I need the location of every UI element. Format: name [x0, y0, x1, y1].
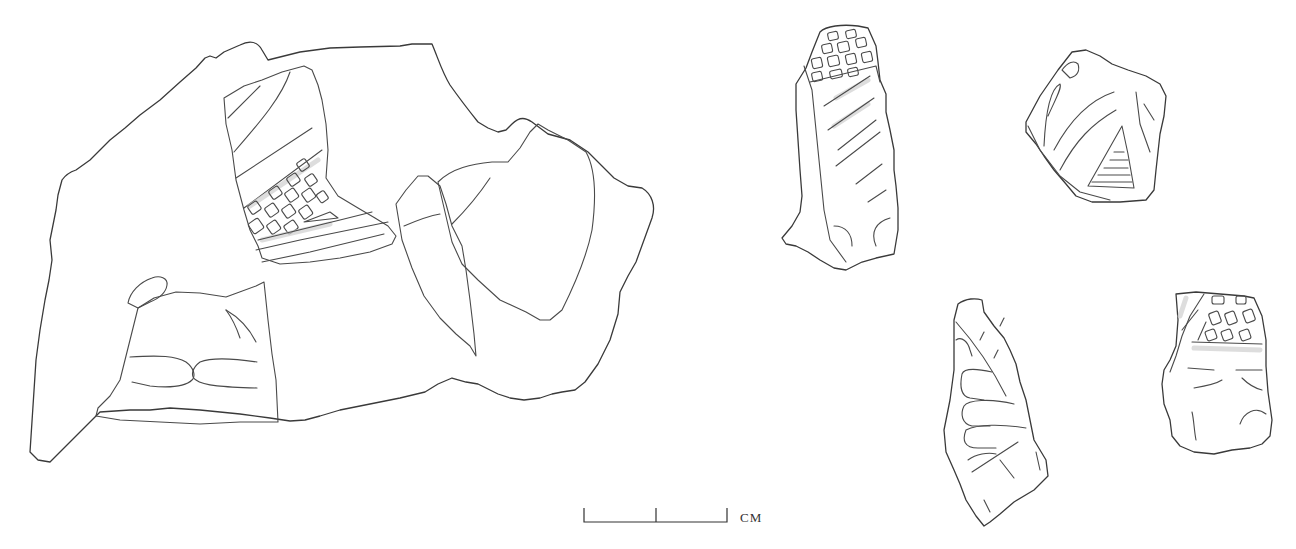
fragment-3-outline	[1026, 50, 1166, 202]
fragment-1-incised-line	[234, 72, 290, 152]
fragment-2-incised-line	[836, 132, 880, 166]
fragment-2-incised-line	[838, 120, 876, 150]
fragment-4-outline	[944, 299, 1048, 526]
fragment-2-outline	[782, 25, 898, 270]
fragment-5-grid	[1198, 296, 1256, 341]
fragment-1-shading	[250, 160, 318, 206]
scale-bar-line	[584, 508, 727, 522]
fragment-1	[30, 42, 654, 462]
fragment-1-incised-line	[452, 178, 490, 224]
fragment-4-finger	[962, 400, 1014, 426]
fragment-2-incised-line	[824, 76, 870, 106]
fragment-4-mark	[1000, 460, 1014, 478]
fragment-4-diagonal	[972, 442, 1018, 472]
fragment-3-curve	[1136, 92, 1150, 152]
fragment-2-incised-line	[856, 164, 882, 184]
fragment-2-arc	[874, 218, 890, 246]
fragment-3-hatching	[1092, 152, 1132, 182]
fragment-4-finger	[964, 425, 1026, 448]
fragment-4-diagonal	[956, 322, 1006, 396]
fragment-4-mark	[994, 350, 998, 358]
fragment-1-leaf-panel	[438, 124, 594, 320]
fragment-4-mark	[980, 332, 984, 340]
scale-bar	[584, 508, 727, 522]
fragment-1-groove	[193, 359, 257, 388]
sherd-illustration	[0, 0, 1296, 549]
fragment-5-shading	[1180, 298, 1186, 316]
fragment-5-diagonal	[1182, 310, 1198, 330]
fragment-4-mark	[1000, 318, 1004, 326]
fragment-4-finger	[956, 339, 972, 356]
fragment-4-finger	[961, 369, 992, 400]
fragment-2-grid	[811, 29, 873, 82]
fragment-3-curve	[1054, 92, 1114, 150]
fragment-1-incised-line	[258, 212, 372, 240]
fragment-5-curve	[1192, 412, 1196, 440]
fragment-3-curve	[1044, 84, 1060, 146]
fragment-4-mark	[1036, 452, 1040, 470]
fragment-5-diagonal	[1170, 294, 1204, 372]
fragment-4	[944, 299, 1048, 526]
fragment-2	[782, 25, 898, 270]
fragment-1-lower-panel-outline	[96, 282, 278, 424]
fragment-4-mark	[984, 500, 990, 512]
fragment-3-triangle	[1088, 126, 1134, 188]
scale-unit-label: CM	[740, 510, 762, 526]
fragment-3-inner-edge	[1028, 126, 1110, 200]
fragment-1-lug	[128, 277, 167, 308]
fragment-1-incised-line	[404, 214, 440, 226]
fragment-5-shading	[1194, 348, 1260, 350]
fragment-5-curve	[1242, 378, 1262, 390]
fragment-5-line	[1188, 368, 1214, 370]
fragment-2-incised-line	[868, 190, 886, 202]
fragment-3-curve	[1144, 104, 1154, 120]
fragment-3-curve	[1060, 110, 1116, 170]
fragment-2-arc	[834, 226, 852, 246]
fragment-3	[1026, 50, 1166, 202]
fragment-5-curve	[1194, 380, 1222, 388]
fragment-1-outline	[30, 42, 654, 462]
fragment-5	[1162, 292, 1272, 454]
fragment-5-band	[1192, 342, 1262, 344]
fragment-5-arc	[1240, 410, 1266, 424]
fragment-2-incised-line	[828, 98, 874, 130]
fragment-3-lug	[1062, 62, 1079, 78]
fragment-1-incised-line	[228, 86, 260, 118]
fragment-1-shading	[262, 224, 330, 240]
fragment-1-groove	[130, 356, 194, 387]
fragment-1-groove	[226, 310, 256, 342]
